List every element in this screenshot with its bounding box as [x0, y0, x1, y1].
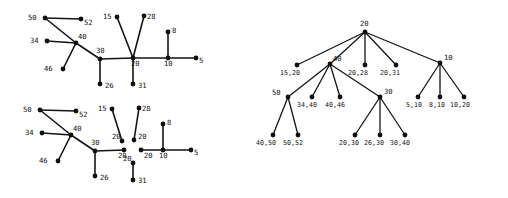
graph-edge — [418, 63, 440, 97]
node-label: 20 — [138, 132, 147, 141]
graph-edge — [40, 110, 76, 111]
panel-graph-top-left: 50523440463026152820318105 — [28, 12, 203, 90]
node-label: 10 — [159, 151, 168, 160]
node-label: 52 — [79, 110, 88, 119]
node-label: 8,10 — [429, 101, 445, 109]
graph-node[interactable] — [74, 109, 79, 114]
node-label: 31 — [138, 176, 147, 185]
graph-node[interactable] — [43, 16, 48, 21]
graph-node[interactable] — [131, 178, 136, 183]
node-label: 20,31 — [380, 69, 400, 77]
graph-node[interactable] — [61, 67, 66, 72]
graph-node[interactable] — [353, 133, 358, 138]
panel-tree-right: 2015,204020,2820,31105034,4040,46305,108… — [256, 19, 470, 147]
node-label: 15 — [98, 104, 107, 113]
node-label: 10 — [164, 59, 173, 68]
graph-node[interactable] — [137, 106, 142, 111]
graph-edge — [117, 17, 133, 58]
node-label: 40 — [78, 32, 87, 41]
node-label: 30 — [96, 46, 105, 55]
graph-node[interactable] — [132, 138, 137, 143]
graph-node[interactable] — [189, 148, 194, 153]
graph-node[interactable] — [286, 95, 291, 100]
node-label: 40,46 — [325, 101, 345, 109]
graph-node[interactable] — [296, 133, 301, 138]
node-label: 50 — [23, 105, 32, 114]
graph-node[interactable] — [40, 131, 45, 136]
graph-node[interactable] — [416, 95, 421, 100]
graph-edge — [365, 32, 396, 65]
graph-edge — [355, 97, 380, 135]
graph-node[interactable] — [363, 30, 368, 35]
graph-edge — [58, 135, 71, 161]
graph-node[interactable] — [338, 95, 343, 100]
graph-node[interactable] — [166, 30, 171, 35]
node-label: 26 — [105, 81, 114, 90]
graph-node[interactable] — [45, 39, 50, 44]
panel-graph-bottom-left: 5052344046302615282020202020318105 — [23, 104, 198, 185]
node-label: 10,20 — [450, 101, 470, 109]
graph-node[interactable] — [110, 107, 115, 112]
node-label: 52 — [84, 18, 93, 27]
graph-node[interactable] — [271, 133, 276, 138]
graph-node[interactable] — [328, 62, 333, 67]
node-label: 28 — [142, 104, 151, 113]
graph-edge — [40, 110, 71, 135]
graph-edge — [63, 43, 76, 69]
node-label: 8 — [167, 118, 171, 127]
node-layer: 2015,204020,2820,31105034,4040,46305,108… — [256, 19, 470, 147]
graph-edge — [273, 97, 288, 135]
node-label: 40,50 — [256, 139, 276, 147]
node-label: 50,52 — [283, 139, 303, 147]
graph-node[interactable] — [115, 15, 120, 20]
node-label: 30 — [384, 87, 393, 96]
node-label: 34,40 — [297, 101, 317, 109]
graph-node[interactable] — [79, 17, 84, 22]
graph-node[interactable] — [394, 63, 399, 68]
graph-node[interactable] — [139, 148, 144, 153]
figure-svg: 5052344046302615282031810550523440463026… — [0, 0, 508, 198]
graph-node[interactable] — [93, 174, 98, 179]
node-label: 34 — [25, 128, 34, 137]
node-label: 46 — [44, 64, 53, 73]
node-label: 20 — [144, 151, 153, 160]
graph-node[interactable] — [98, 57, 103, 62]
node-label: 8 — [172, 26, 176, 35]
graph-node[interactable] — [378, 95, 383, 100]
graph-node[interactable] — [93, 149, 98, 154]
node-layer: 5052344046302615282020202020318105 — [23, 104, 198, 185]
node-label: 20,28 — [348, 69, 368, 77]
node-label: 28 — [147, 12, 156, 21]
graph-node[interactable] — [131, 82, 136, 87]
graph-node[interactable] — [69, 133, 74, 138]
node-label: 50 — [272, 88, 281, 97]
graph-node[interactable] — [378, 133, 383, 138]
graph-node[interactable] — [438, 61, 443, 66]
node-label: 15,20 — [280, 69, 300, 77]
graph-node[interactable] — [98, 82, 103, 87]
graph-node[interactable] — [403, 133, 408, 138]
graph-node[interactable] — [295, 63, 300, 68]
node-layer: 50523440463026152820318105 — [28, 12, 203, 90]
graph-node[interactable] — [363, 63, 368, 68]
node-label: 20 — [123, 154, 132, 163]
graph-edge — [42, 133, 71, 135]
node-label: 50 — [28, 13, 37, 22]
graph-node[interactable] — [462, 95, 467, 100]
edge-layer — [273, 32, 464, 135]
graph-node[interactable] — [56, 159, 61, 164]
node-label: 5 — [199, 56, 203, 65]
graph-node[interactable] — [161, 122, 166, 127]
node-label: 15 — [103, 12, 112, 21]
graph-edge — [45, 18, 76, 43]
graph-node[interactable] — [194, 56, 199, 61]
graph-node[interactable] — [142, 14, 147, 19]
graph-edge — [100, 58, 133, 59]
graph-node[interactable] — [438, 95, 443, 100]
node-label: 20 — [131, 59, 140, 68]
node-label: 46 — [39, 156, 48, 165]
graph-node[interactable] — [310, 95, 315, 100]
graph-node[interactable] — [38, 108, 43, 113]
graph-node[interactable] — [74, 41, 79, 46]
graph-edge — [297, 32, 365, 65]
